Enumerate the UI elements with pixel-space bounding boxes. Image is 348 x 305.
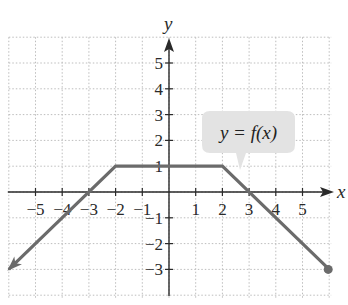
y-axis-label: y [162,13,173,34]
x-tick-label: 3 [245,200,254,219]
x-tick-label: −5 [26,200,44,219]
y-tick-label: 4 [155,80,164,99]
x-tick-label: −3 [80,200,98,219]
x-tick-label: 1 [191,200,200,219]
y-tick-label: 5 [155,54,164,73]
x-tick-label: −2 [107,200,125,219]
grid [9,37,331,299]
x-axis-label: x [336,181,346,202]
callout-bubble: y = f(x) [202,111,295,170]
x-tick-label: 5 [298,200,307,219]
y-tick-label: 3 [155,106,164,125]
y-tick-label: −2 [145,235,163,254]
endpoint-dot-icon [324,265,333,274]
function-graph: −5−4−3−2−112345−3−2−112345 y = f(x) x y [0,0,348,305]
y-tick-label: −1 [145,209,163,228]
y-tick-label: 2 [155,131,164,150]
function-curve [7,166,332,274]
x-tick-label: 2 [218,200,227,219]
y-tick-label: −3 [145,260,163,279]
callout-label: y = f(x) [218,122,277,144]
